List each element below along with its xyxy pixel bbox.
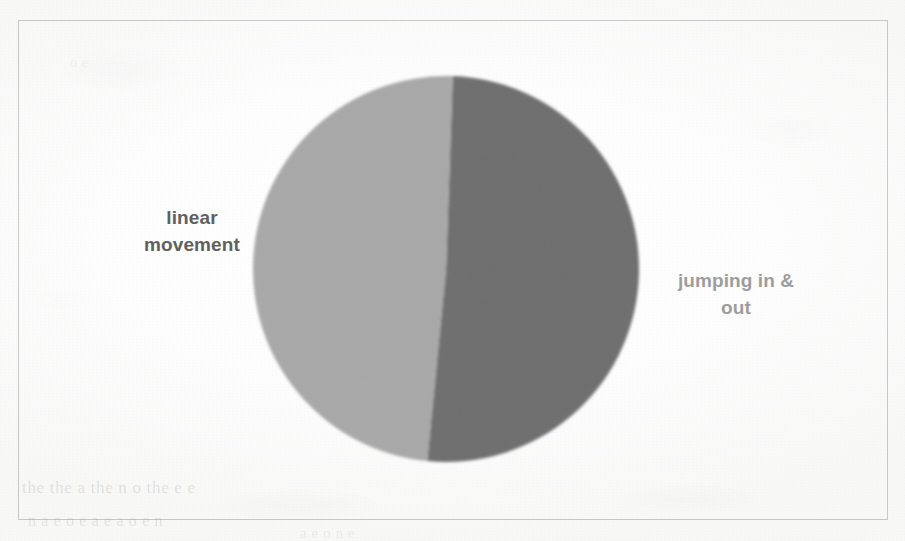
pie-chart-svg bbox=[236, 55, 656, 483]
pie-grain-overlay bbox=[253, 76, 639, 462]
pie-label-linear-movement: linear movement bbox=[112, 205, 272, 259]
scanned-page: o e e a the the a the n o the e e n a e … bbox=[0, 0, 905, 541]
pie-chart: linear movement jumping in & out bbox=[0, 0, 905, 541]
pie-label-jumping-in-and-out: jumping in & out bbox=[648, 268, 824, 322]
